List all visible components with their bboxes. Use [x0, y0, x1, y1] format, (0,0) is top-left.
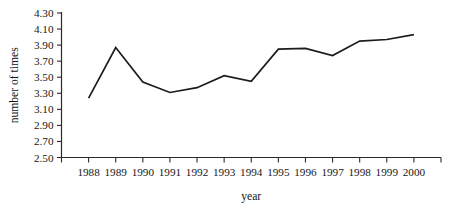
- y-axis-tick-label: 3.30: [34, 87, 54, 99]
- x-axis-tick-label: 1995: [267, 166, 290, 178]
- y-axis-tick-label: 3.10: [34, 103, 54, 115]
- x-axis-tick-label: 1989: [105, 166, 128, 178]
- y-axis-tick-label: 4.10: [34, 23, 54, 35]
- y-axis-tick-label: 2.90: [34, 119, 54, 131]
- x-axis-tick-label: 1990: [132, 166, 155, 178]
- y-axis-tick-label: 2.70: [34, 135, 54, 147]
- x-axis-tick-label: 1994: [240, 166, 263, 178]
- x-axis-tick-label: 1996: [294, 166, 317, 178]
- data-series-line: [89, 35, 414, 98]
- y-axis-tick-label: 3.70: [34, 55, 54, 67]
- x-axis-tick-label: 1997: [321, 166, 344, 178]
- x-axis-title: year: [241, 190, 261, 203]
- x-axis-tick-label: 1992: [186, 166, 208, 178]
- x-axis-tick-label: 1991: [159, 166, 181, 178]
- line-chart: 4.304.103.903.703.503.303.102.902.702.50…: [0, 0, 463, 217]
- x-axis-tick-label: 2000: [403, 166, 426, 178]
- y-axis-tick-label: 3.90: [34, 39, 54, 51]
- x-axis-tick-label: 1999: [376, 166, 399, 178]
- chart-canvas: 4.304.103.903.703.503.303.102.902.702.50…: [0, 0, 463, 217]
- x-axis-tick-label: 1998: [348, 166, 371, 178]
- x-axis-tick-label: 1988: [77, 166, 100, 178]
- y-axis-tick-label: 4.30: [34, 7, 54, 19]
- y-axis-tick-label: 3.50: [34, 71, 54, 83]
- y-axis-tick-label: 2.50: [34, 152, 54, 164]
- x-axis-tick-label: 1993: [213, 166, 236, 178]
- y-axis-title: number of times: [8, 47, 21, 123]
